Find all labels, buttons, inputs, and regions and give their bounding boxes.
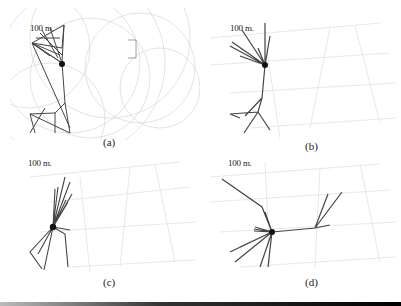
scale-bar-label-d: 100 m. (228, 158, 252, 168)
hub-node-b (262, 62, 268, 68)
panel-b: 100 m. (b) (210, 8, 400, 148)
network-diagram-d (210, 152, 400, 284)
caption-b: (b) (305, 140, 318, 152)
panel-c: 100 m. (c) (10, 152, 200, 292)
scale-bar-label-b: 100 m. (230, 23, 254, 33)
panel-a: 100 m. (a) (10, 8, 200, 148)
scale-bar-label-a: 100 m. (30, 23, 54, 33)
network-diagram-c (10, 152, 200, 284)
scan-edge-bar (0, 302, 401, 306)
hub-node-d (269, 229, 275, 235)
caption-a: (a) (103, 136, 115, 148)
scale-bar-label-c: 100 m. (28, 158, 52, 168)
hub-node-a (59, 61, 65, 67)
panel-d: 100 m. (d) (210, 152, 400, 292)
caption-d: (d) (305, 276, 318, 288)
hub-node-c (50, 224, 56, 230)
caption-c: (c) (103, 276, 115, 288)
